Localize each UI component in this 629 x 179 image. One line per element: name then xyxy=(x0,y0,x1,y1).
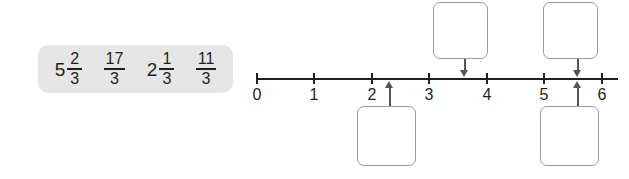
answer-box-bottom-right[interactable] xyxy=(540,106,599,166)
tick-2 xyxy=(371,73,373,84)
tick-5 xyxy=(543,73,545,84)
tick-label-3: 3 xyxy=(417,86,441,104)
tick-label-6: 6 xyxy=(590,86,614,104)
number-line-axis xyxy=(256,78,618,80)
tick-6 xyxy=(601,73,603,84)
arrow-stem-bottom-right xyxy=(577,87,579,106)
tick-0 xyxy=(256,73,258,84)
tick-label-4: 4 xyxy=(475,86,499,104)
arrow-head-up-right-icon xyxy=(573,81,581,88)
tick-1 xyxy=(313,73,315,84)
tick-4 xyxy=(486,73,488,84)
answer-box-top-left[interactable] xyxy=(433,2,488,59)
arrow-stem-bottom-left xyxy=(389,87,391,106)
arrow-head-up-left-icon xyxy=(385,81,393,88)
tick-3 xyxy=(428,73,430,84)
arrow-head-down-right-icon xyxy=(573,70,581,77)
number-line-area: 0 1 2 3 4 5 6 xyxy=(0,0,629,179)
answer-box-bottom-left[interactable] xyxy=(357,106,416,166)
tick-label-0: 0 xyxy=(245,86,269,104)
arrow-head-down-left-icon xyxy=(460,70,468,77)
tick-label-5: 5 xyxy=(532,86,556,104)
tick-label-1: 1 xyxy=(302,86,326,104)
tick-label-2: 2 xyxy=(360,86,384,104)
answer-box-top-right[interactable] xyxy=(543,2,598,59)
